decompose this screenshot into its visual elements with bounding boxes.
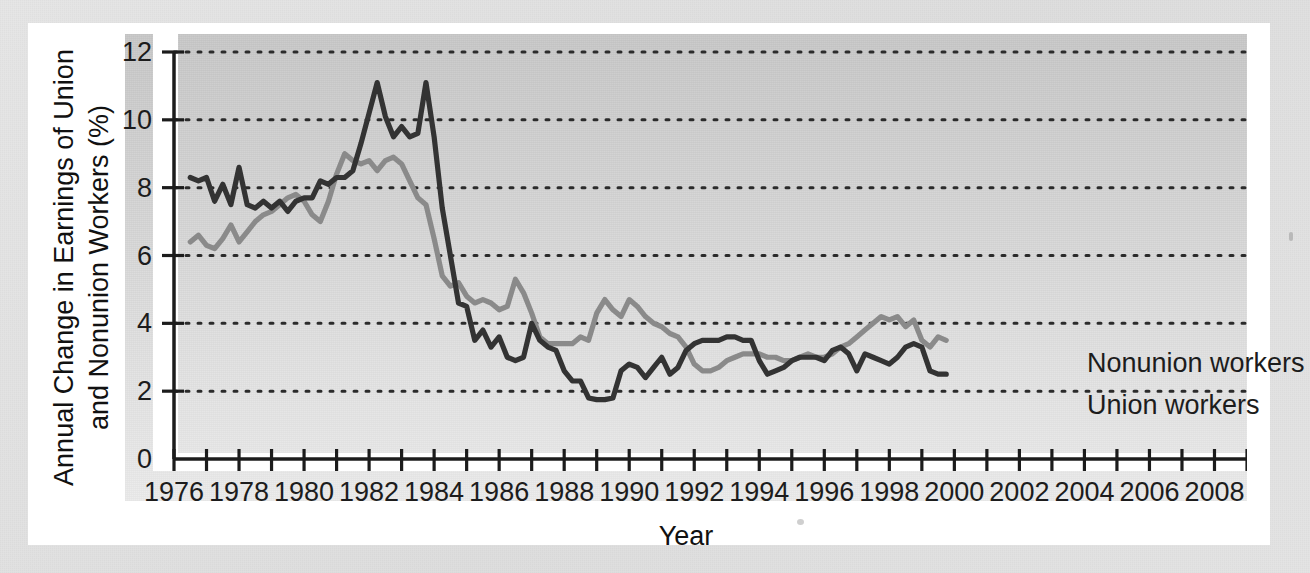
x-axis-title: Year (125, 521, 1247, 552)
y-axis-title: Annual Change in Earnings of Union and N… (45, 34, 119, 501)
data-series-layer (190, 83, 946, 400)
figure-card: 024681012 197619781980198219841986198819… (28, 23, 1270, 545)
page-speck (1289, 232, 1293, 241)
series-label-nonunion: Nonunion workers (1087, 350, 1305, 377)
series-label-union: Union workers (1087, 392, 1260, 419)
chart-figure: 024681012 197619781980198219841986198819… (125, 34, 1247, 501)
chart-svg (125, 34, 1247, 501)
series-line-nonunion (190, 154, 946, 371)
page-speck-secondary (797, 519, 804, 525)
x-tick-label: 2008 (1159, 479, 1269, 506)
series-line-union (190, 83, 946, 400)
axis-ticks (162, 52, 1247, 471)
